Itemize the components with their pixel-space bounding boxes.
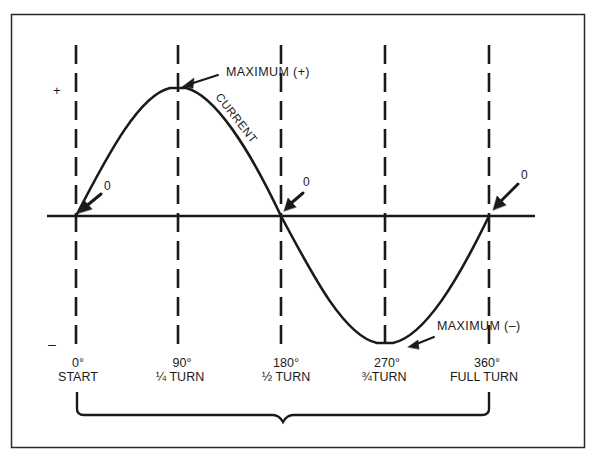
degree-label-360: 360° <box>474 356 500 370</box>
turn-label-full: FULL TURN <box>450 370 518 384</box>
dashed-gridlines <box>76 45 489 350</box>
turn-label-quarter: ¼ TURN <box>156 370 204 384</box>
degree-label-270: 270° <box>374 356 400 370</box>
turn-label-start: START <box>58 370 98 384</box>
zero-full-label: 0 <box>521 168 528 182</box>
negative-sign: – <box>48 336 56 352</box>
degree-label-90: 90° <box>173 356 192 370</box>
position-labels: 0° START 90° ¼ TURN 180° ½ TURN 270° ¾TU… <box>58 356 518 384</box>
sine-wave-diagram: + – CURRENT MAXIMUM (+) 0 0 0 MAXIMUM (–… <box>0 0 593 457</box>
turn-label-three-quarter: ¾TURN <box>361 370 406 384</box>
zero-half-label: 0 <box>303 175 310 189</box>
max-positive-label: MAXIMUM (+) <box>226 65 310 79</box>
full-cycle-brace <box>77 392 489 422</box>
degree-label-0: 0° <box>72 356 84 370</box>
annotation-arrows <box>79 75 518 349</box>
degree-label-180: 180° <box>273 356 299 370</box>
arrowhead-icon <box>408 340 419 349</box>
arrowhead-icon <box>182 78 194 88</box>
zero-start-label: 0 <box>104 179 111 193</box>
max-negative-label: MAXIMUM (–) <box>437 319 521 333</box>
arrow-zero-full <box>499 184 518 203</box>
positive-sign: + <box>53 83 61 98</box>
turn-label-half: ½ TURN <box>262 370 310 384</box>
